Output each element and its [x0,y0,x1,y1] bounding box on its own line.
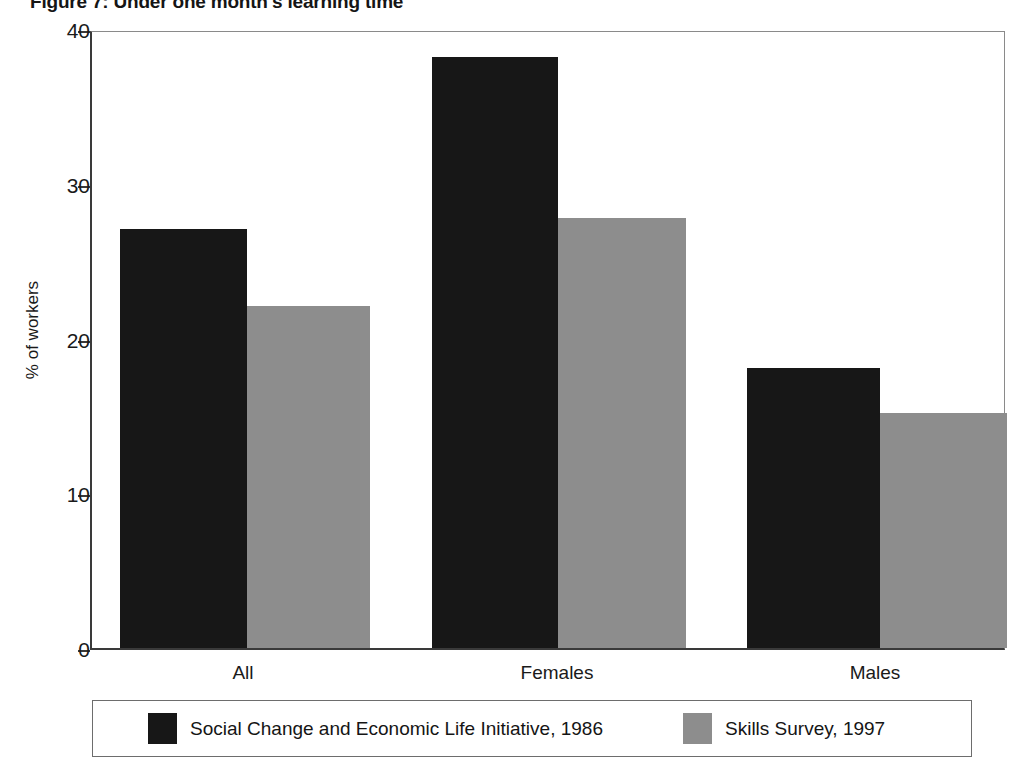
y-tick-label: 10 [26,483,90,507]
bar-males-series-0 [747,368,880,648]
chart-legend: Social Change and Economic Life Initiati… [92,700,972,757]
y-tick-label: 20 [26,329,90,353]
bar-females-series-1 [558,218,686,648]
page-title: Figure 7: Under one month's learning tim… [30,0,403,13]
bar-all-series-0 [120,229,247,648]
legend-swatch-icon [683,713,712,744]
bar-males-series-1 [880,413,1007,648]
x-axis-label-females: Females [521,662,594,684]
bar-all-series-1 [247,306,370,648]
legend-item: Skills Survey, 1997 [683,701,885,756]
y-tick-label: 40 [26,19,90,43]
plot-area [90,31,1005,650]
legend-label: Social Change and Economic Life Initiati… [190,718,603,740]
figure-container: Figure 7: Under one month's learning tim… [0,0,1013,773]
x-axis-label-males: Males [850,662,901,684]
y-tick-label: 30 [26,174,90,198]
x-axis-label-all: All [232,662,253,684]
legend-label: Skills Survey, 1997 [725,718,885,740]
bar-females-series-0 [432,57,558,648]
legend-swatch-icon [148,713,177,744]
legend-item: Social Change and Economic Life Initiati… [148,701,603,756]
y-tick-label: 0 [26,638,90,662]
